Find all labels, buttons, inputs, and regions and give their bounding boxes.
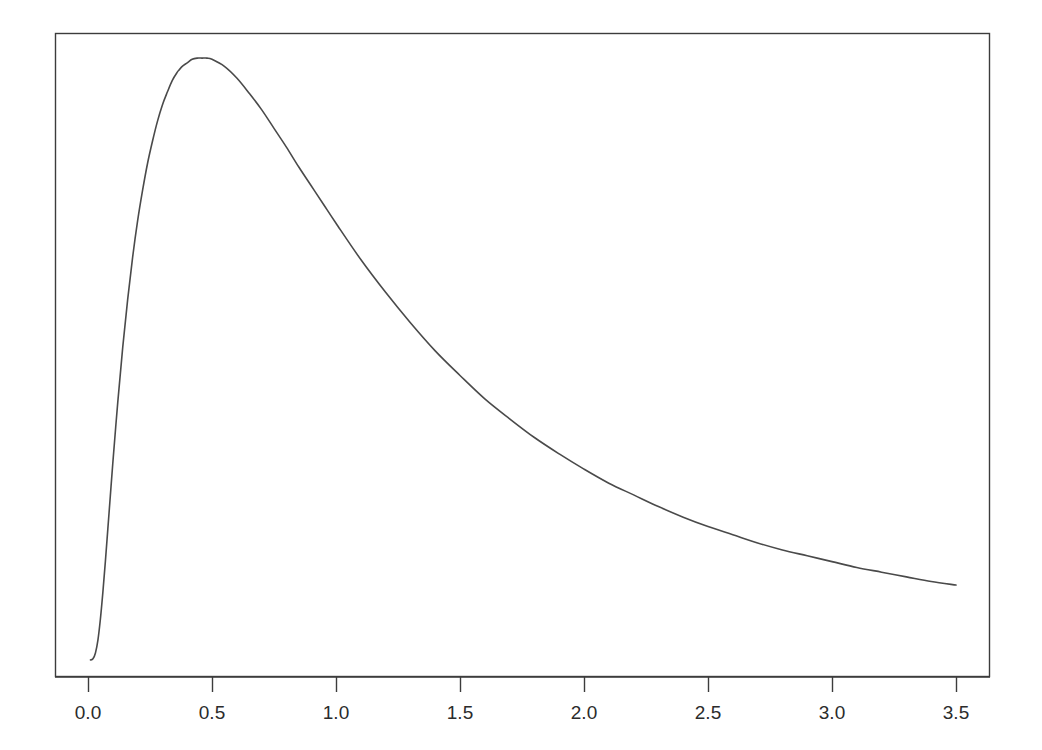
x-tick-label-7: 3.5 (943, 702, 969, 723)
x-tick-label-0: 0.0 (75, 702, 101, 723)
x-tick-label-2: 1.0 (323, 702, 349, 723)
x-tick-label-4: 2.0 (571, 702, 597, 723)
x-tick-label-5: 2.5 (695, 702, 721, 723)
density-plot-figure: 0.0 0.5 1.0 1.5 2.0 2.5 3.0 3.5 (0, 0, 1042, 750)
x-axis-tick-labels: 0.0 0.5 1.0 1.5 2.0 2.5 3.0 3.5 (75, 702, 969, 723)
density-curve (90, 58, 956, 660)
x-tick-label-1: 0.5 (199, 702, 225, 723)
x-axis-ticks (89, 677, 957, 692)
x-tick-label-3: 1.5 (447, 702, 473, 723)
plot-frame (56, 34, 990, 677)
plot-svg: 0.0 0.5 1.0 1.5 2.0 2.5 3.0 3.5 (0, 0, 1042, 750)
x-tick-label-6: 3.0 (819, 702, 845, 723)
